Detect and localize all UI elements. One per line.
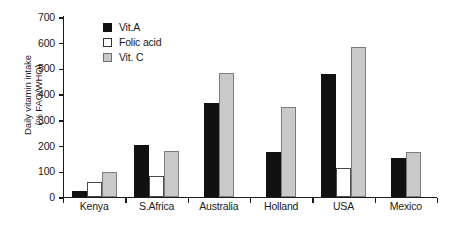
legend-label-vit-a: Vit.A xyxy=(119,21,140,33)
bar-kenya-folic-acid xyxy=(87,182,102,196)
bar-usa-vit--c xyxy=(351,47,366,197)
legend-label-vit-c: Vit. C xyxy=(119,51,143,63)
y-tick-label: 400 xyxy=(38,88,55,100)
bar-group-usa xyxy=(312,19,374,197)
bar-mexico-vit--c xyxy=(406,152,421,196)
x-axis-label-australia: Australia xyxy=(188,200,250,212)
y-tick-label: 100 xyxy=(38,165,55,177)
y-tick-label: 600 xyxy=(38,37,55,49)
bar-mexico-vit-a xyxy=(391,158,406,197)
y-tick-label: 200 xyxy=(38,140,55,152)
legend-item-vit-c: Vit. C xyxy=(103,50,161,64)
bar-usa-folic-acid xyxy=(336,168,351,196)
y-tick-label: 700 xyxy=(38,11,55,23)
legend-swatch-vit-a xyxy=(103,23,112,32)
bar-australia-vit--c xyxy=(219,73,234,196)
legend-swatch-vit-c xyxy=(103,53,112,62)
bar-usa-vit-a xyxy=(321,74,336,196)
x-axis-label-mexico: Mexico xyxy=(375,200,437,212)
x-axis-label-kenya: Kenya xyxy=(63,200,125,212)
y-tick-label: 500 xyxy=(38,62,55,74)
y-tick-label: 0 xyxy=(49,191,55,203)
legend-label-folic-acid: Folic acid xyxy=(119,36,161,48)
vitamin-intake-bar-chart: Daily vitamin intake (% FAO/WHO) 0100200… xyxy=(0,0,456,243)
bar-group-australia xyxy=(188,19,250,197)
x-axis-label-holland: Holland xyxy=(250,200,312,212)
bar-group-holland xyxy=(250,19,312,197)
bar-holland-vit--c xyxy=(281,107,296,196)
bar-s-africa-vit-a xyxy=(134,145,149,196)
bar-s-africa-vit--c xyxy=(164,151,179,197)
x-axis-labels: KenyaS.AfricaAustraliaHollandUSAMexico xyxy=(63,200,437,212)
legend-item-folic-acid: Folic acid xyxy=(103,35,161,49)
bar-group-mexico xyxy=(375,19,437,197)
bar-s-africa-folic-acid xyxy=(149,176,164,197)
bar-australia-vit-a xyxy=(204,103,219,197)
x-tick-mark xyxy=(437,198,438,203)
chart-legend: Vit.A Folic acid Vit. C xyxy=(103,20,161,65)
legend-swatch-folic-acid xyxy=(103,38,112,47)
bar-kenya-vit--c xyxy=(102,172,117,196)
x-axis-label-s-africa: S.Africa xyxy=(125,200,187,212)
bar-holland-vit-a xyxy=(266,152,281,196)
bar-kenya-vit-a xyxy=(72,191,87,196)
legend-item-vit-a: Vit.A xyxy=(103,20,161,34)
y-tick-label: 300 xyxy=(38,114,55,126)
x-axis-label-usa: USA xyxy=(312,200,374,212)
